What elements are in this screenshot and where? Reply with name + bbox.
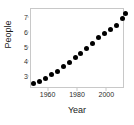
x-axis-tick-label: 1960 <box>40 91 56 98</box>
y-axis-tick-mark <box>26 16 29 17</box>
data-point <box>73 55 78 60</box>
x-axis-tick-label: 1980 <box>69 91 85 98</box>
data-point <box>96 35 101 40</box>
data-point <box>31 81 36 86</box>
data-point <box>120 16 125 21</box>
data-point <box>84 46 89 51</box>
y-axis-tick-mark <box>26 76 29 77</box>
x-axis-tick-marks <box>30 88 124 89</box>
y-axis-tick-mark <box>26 31 29 32</box>
data-point <box>55 69 60 74</box>
data-point <box>49 72 54 77</box>
data-point <box>37 79 42 84</box>
y-axis-tick-mark <box>26 61 29 62</box>
data-point <box>90 41 95 46</box>
data-point <box>78 51 83 56</box>
x-axis-title: Year <box>30 106 124 115</box>
data-point <box>108 27 113 32</box>
plot-data-area <box>31 9 123 87</box>
data-point <box>67 60 72 65</box>
data-point <box>102 31 107 36</box>
y-axis-tick-mark <box>26 46 29 47</box>
data-point <box>114 23 119 28</box>
data-point <box>123 11 128 16</box>
y-axis-title: People <box>4 11 13 59</box>
data-point <box>61 64 66 69</box>
x-axis-tick-label: 2000 <box>99 91 115 98</box>
data-point <box>43 76 48 81</box>
x-axis-tick-labels: 196019802000 <box>30 91 124 101</box>
plot-frame <box>30 8 124 88</box>
scatter-chart-figure: People 34567 196019802000 Year <box>0 0 134 125</box>
